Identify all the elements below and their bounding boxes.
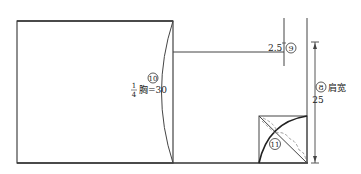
armhole-dashed-curve-2 <box>262 121 276 134</box>
armhole-marker-number: 11 <box>271 141 280 149</box>
chest-fraction-num: 1 <box>132 82 136 90</box>
shoulder-drop-marker-number: 9 <box>288 44 293 53</box>
armhole-diagonal <box>259 116 307 163</box>
dimension-arrow-up <box>313 43 317 49</box>
shoulder-width-value: 25 <box>312 95 324 105</box>
shoulder-drop-value: 2.5 <box>268 43 283 53</box>
shoulder-width-marker-number: 8 <box>318 83 323 92</box>
shoulder-width-label: 肩宽 <box>328 82 346 93</box>
chest-label: 胸=30 <box>139 84 167 95</box>
chest-fraction-den: 4 <box>132 91 137 99</box>
pattern-diagram: 10 1 4 胸=30 2.5 9 8 肩宽 25 11 <box>0 0 361 174</box>
chest-marker-number: 10 <box>149 75 158 83</box>
dimension-arrow-down <box>313 156 317 162</box>
